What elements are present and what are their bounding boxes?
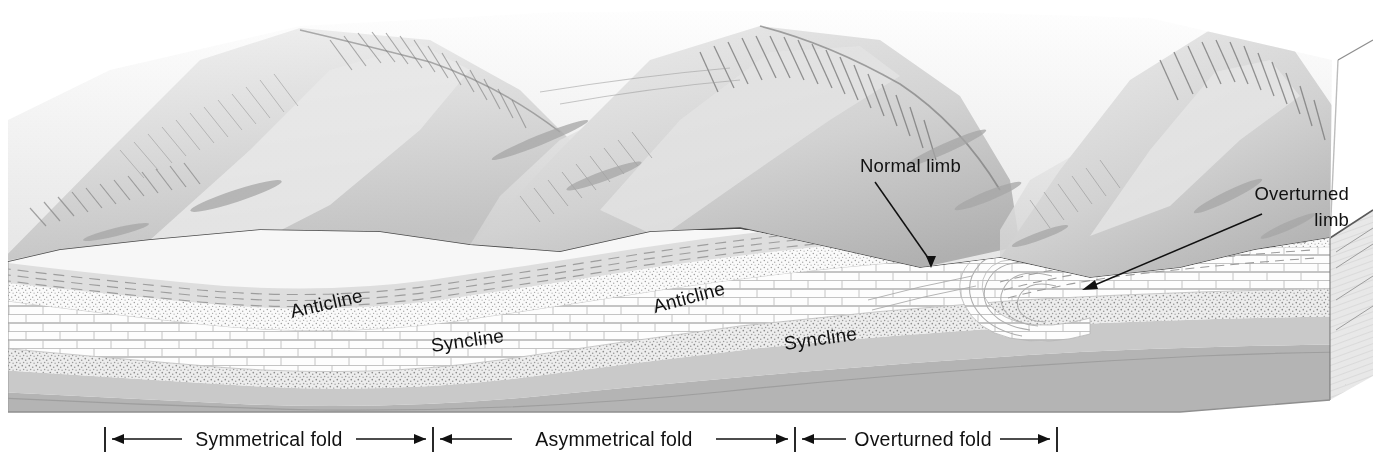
geologic-block-diagram: Anticline Syncline Anticline Syncline No… [0,0,1373,471]
scale-label-overturned-fold: Overturned fold [854,428,991,450]
fold-type-scale-bar: Symmetrical fold Asymmetrical fold Overt… [105,427,1057,452]
callout-normal-limb-label: Normal limb [860,155,961,176]
callout-overturned-limb-label-line2: limb [1314,209,1349,230]
scale-label-symmetrical-fold: Symmetrical fold [195,428,342,450]
scale-label-asymmetrical-fold: Asymmetrical fold [535,428,692,450]
block-diagram-figure: Anticline Syncline Anticline Syncline No… [0,0,1373,471]
callout-overturned-limb-label-line1: Overturned [1254,183,1349,204]
